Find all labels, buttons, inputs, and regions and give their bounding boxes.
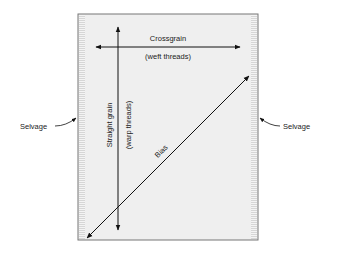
weft-threads-label: (weft threads) [145, 52, 191, 61]
straight-grain-label: Straight grain [105, 103, 114, 148]
selvage-right-label: Selvage [283, 122, 310, 131]
crossgrain-label: Crossgrain [150, 34, 186, 43]
selvage-left-label: Selvage [20, 122, 47, 131]
selvage-left-pointer [55, 118, 76, 126]
fabric-grain-diagram: Crossgrain (weft threads) Straight grain… [0, 0, 340, 253]
warp-threads-label: (warp threads) [124, 100, 133, 149]
right-selvage-edge [251, 15, 257, 239]
selvage-right-pointer [260, 118, 280, 126]
left-selvage-edge [79, 15, 85, 239]
